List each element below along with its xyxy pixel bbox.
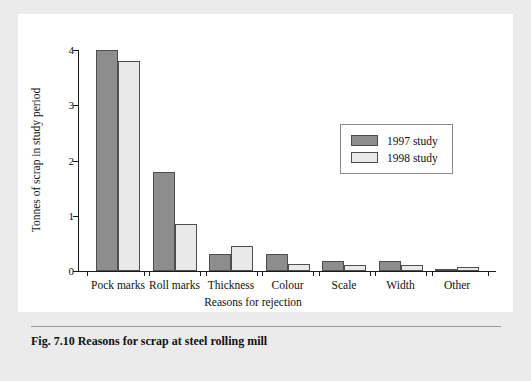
x-axis-tick-mark (200, 271, 201, 276)
x-axis-category-label: Width (386, 279, 414, 291)
bar-1998-study (231, 246, 253, 271)
y-axis-title: Tonnes of scrap in study period (30, 88, 42, 233)
x-axis-category-label: Pock marks (91, 279, 145, 291)
bar-1998-study (175, 224, 197, 271)
bar-group (96, 50, 140, 271)
bar-1997-study (209, 254, 231, 271)
x-axis-category-label: Scale (332, 279, 357, 291)
x-axis-tick-mark (87, 271, 88, 276)
x-axis-tick-mark (432, 271, 433, 276)
bar-1998-study (118, 61, 140, 271)
bar-1998-study (344, 265, 366, 271)
bar-1997-study (266, 254, 288, 271)
figure-caption: Fig. 7.10 Reasons for scrap at steel rol… (31, 334, 267, 349)
legend-item: 1997 study (351, 132, 438, 149)
x-axis-tick-mark (144, 271, 145, 276)
bar-group (266, 50, 310, 271)
bar-1998-study (457, 267, 479, 271)
bar-group (153, 50, 197, 271)
figure-block: 01234 Tonnes of scrap in study period Po… (18, 14, 513, 366)
bar-1997-study (96, 50, 118, 271)
plot-area: 01234 Tonnes of scrap in study period Po… (78, 36, 496, 285)
y-axis-tick-label: 4 (69, 45, 75, 56)
legend-swatch-1998-study (351, 152, 378, 163)
bar-1998-study (401, 265, 423, 271)
x-axis-tick-mark (370, 271, 371, 276)
legend-label: 1997 study (387, 135, 438, 147)
x-axis-category-label: Other (444, 279, 470, 291)
x-axis-tick-mark (262, 271, 263, 276)
y-axis-tick-label: 0 (69, 266, 75, 277)
bar-1997-study (153, 172, 175, 271)
legend-item: 1998 study (351, 149, 438, 166)
chart-legend: 1997 study 1998 study (340, 124, 453, 174)
legend-swatch-1997-study (351, 135, 378, 146)
x-axis-tick-mark (257, 271, 258, 276)
x-axis-tick-mark (313, 271, 314, 276)
x-axis-category-label: Colour (272, 279, 304, 291)
x-axis-tick-mark (426, 271, 427, 276)
y-axis-tick-label: 3 (69, 100, 75, 111)
y-axis-tick-label: 1 (69, 210, 75, 221)
bar-1997-study (379, 261, 401, 271)
bar-1998-study (288, 264, 310, 271)
x-axis-tick-mark (149, 271, 150, 276)
bar-group (209, 50, 253, 271)
chart-panel: 01234 Tonnes of scrap in study period Po… (18, 14, 513, 312)
x-axis-category-label: Thickness (208, 279, 255, 291)
caption-divider (31, 326, 501, 327)
x-axis-tick-mark (319, 271, 320, 276)
x-axis-category-label: Roll marks (149, 279, 200, 291)
x-axis-line (78, 271, 496, 272)
x-axis-title: Reasons for rejection (204, 296, 302, 308)
x-axis-tick-mark (206, 271, 207, 276)
x-axis-tick-mark (488, 271, 489, 276)
y-axis-tick-label: 2 (69, 155, 75, 166)
bar-1997-study (322, 261, 344, 271)
x-axis-tick-mark (375, 271, 376, 276)
bar-1997-study (435, 269, 457, 271)
legend-label: 1998 study (387, 152, 438, 164)
